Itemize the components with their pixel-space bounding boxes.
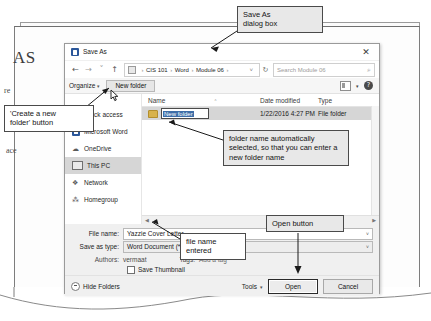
sort-ascending-icon: ˄ xyxy=(214,98,217,105)
back-icon[interactable]: ← xyxy=(69,63,82,77)
chevron-down-icon[interactable]: ˅ xyxy=(366,231,369,237)
folder-rename-input[interactable]: New folder xyxy=(161,108,209,119)
search-input[interactable]: Search Module 06 ⌕ xyxy=(273,63,375,77)
save-thumbnail-row[interactable]: Save Thumbnail xyxy=(65,264,379,275)
organize-button[interactable]: Organize▾ xyxy=(69,82,100,89)
sidebar-item-this-pc[interactable]: This PC xyxy=(65,157,141,174)
column-header-name-label: Name xyxy=(148,97,165,104)
dialog-footer: Hide Folders Tools▾ Open Cancel xyxy=(65,275,379,296)
breadcrumb-dropdown-icon[interactable]: ˅ xyxy=(246,67,256,73)
sidebar-item-label: Homegroup xyxy=(84,196,118,203)
row-date-modified-cell: 1/22/2016 4:27 PM xyxy=(260,110,318,117)
chevron-down-icon[interactable]: ˅ xyxy=(366,244,369,250)
callout-line: Save As xyxy=(243,10,317,19)
breadcrumb[interactable]: › CIS 101 › Word › Module 06 › ˅ xyxy=(124,63,260,77)
cloud-icon: ☁ xyxy=(72,145,80,153)
cancel-button[interactable]: Cancel xyxy=(323,279,373,294)
sidebar-item-onedrive[interactable]: ☁ OneDrive xyxy=(65,140,141,157)
authors-value[interactable]: vermaat xyxy=(123,256,169,263)
callout-line: file name xyxy=(186,237,240,246)
open-button[interactable]: Open xyxy=(268,279,318,294)
breadcrumb-item-1[interactable]: Word xyxy=(175,67,189,73)
breadcrumb-item-2[interactable]: Module 06 xyxy=(196,67,224,73)
toolbar-right-group: ▾ ? xyxy=(340,81,375,91)
hide-folders-button[interactable]: Hide Folders xyxy=(71,282,120,291)
file-name-label: File name: xyxy=(65,230,123,237)
row-name-cell[interactable]: New folder xyxy=(142,108,260,119)
authors-label: Authors: xyxy=(91,256,123,263)
collapse-icon xyxy=(71,282,80,291)
network-icon: ❖ xyxy=(72,179,80,187)
background-text-fragment-2: ace xyxy=(6,146,17,155)
callout-folder-name-selected: folder name automatically selected, so t… xyxy=(223,130,349,166)
column-header-date-modified[interactable]: Date modified xyxy=(260,97,318,104)
dialog-title-bar: Save As ✕ xyxy=(65,44,379,61)
breadcrumb-separator-1: › xyxy=(170,67,172,73)
search-icon: ⌕ xyxy=(367,66,371,74)
word-document-icon xyxy=(71,48,79,56)
change-view-icon[interactable] xyxy=(340,81,351,91)
chevron-down-icon: ▾ xyxy=(97,83,100,89)
row-type-cell: File folder xyxy=(318,110,358,117)
column-header-type[interactable]: Type xyxy=(318,97,358,104)
organize-label: Organize xyxy=(69,82,95,89)
close-icon[interactable]: ✕ xyxy=(353,44,379,60)
sidebar-item-label: OneDrive xyxy=(84,145,111,152)
sidebar-item-network[interactable]: ❖ Network xyxy=(65,174,141,191)
footer-buttons: Tools▾ Open Cancel xyxy=(242,279,373,294)
save-as-type-select[interactable]: Word Document (*.docx) ˅ xyxy=(123,241,373,253)
save-thumbnail-checkbox[interactable] xyxy=(127,266,135,274)
view-chevron-down-icon[interactable]: ▾ xyxy=(356,83,359,89)
callout-save-as-dialog: Save As dialog box xyxy=(237,6,323,33)
sidebar-item-label: Network xyxy=(84,179,108,186)
folder-icon xyxy=(148,110,158,118)
computer-icon xyxy=(72,161,83,170)
refresh-icon[interactable]: ↻ xyxy=(260,66,271,74)
callout-line: folder' button xyxy=(10,118,88,127)
callout-line: dialog box xyxy=(243,19,317,28)
file-list-header: Name˄ Date modified Type xyxy=(142,94,379,107)
table-row[interactable]: New folder 1/22/2016 4:27 PM File folder xyxy=(142,107,379,120)
callout-file-name-entered: file name entered xyxy=(180,233,246,260)
scroll-right-icon[interactable]: ▶ xyxy=(369,217,379,223)
callout-line: entered xyxy=(186,246,240,255)
dialog-title: Save As xyxy=(83,48,107,55)
forward-icon[interactable]: → xyxy=(82,63,95,77)
breadcrumb-separator-0: › xyxy=(142,67,144,73)
tools-label: Tools xyxy=(242,283,257,290)
hide-folders-label: Hide Folders xyxy=(83,283,120,290)
breadcrumb-item-0[interactable]: CIS 101 xyxy=(146,67,168,73)
callout-create-new-folder: 'Create a new folder' button xyxy=(4,105,94,132)
folder-icon xyxy=(128,66,136,74)
homegroup-icon: ⁂ xyxy=(72,196,80,204)
file-name-value: Yazzie Cover Letter xyxy=(127,230,184,237)
scroll-left-icon[interactable]: ◀ xyxy=(142,217,152,223)
folder-name-selected-text: New folder xyxy=(163,111,194,117)
recent-locations-icon[interactable]: ˅ xyxy=(95,63,108,77)
breadcrumb-separator-3: › xyxy=(226,67,228,73)
mouse-cursor-icon xyxy=(110,89,120,102)
save-as-type-label: Save as type: xyxy=(65,243,123,250)
search-placeholder: Search Module 06 xyxy=(277,67,367,73)
help-icon[interactable]: ? xyxy=(364,81,373,90)
background-text-fragment-1: re xyxy=(4,86,10,95)
address-bar: ← → ˅ ↑ › CIS 101 › Word › Module 06 › ˅… xyxy=(65,61,379,78)
sidebar-item-label: This PC xyxy=(87,162,110,169)
sidebar-item-homegroup[interactable]: ⁂ Homegroup xyxy=(65,191,141,208)
save-thumbnail-label: Save Thumbnail xyxy=(138,266,185,273)
up-icon[interactable]: ↑ xyxy=(108,63,121,77)
vertical-scrollbar[interactable] xyxy=(371,106,379,216)
callout-line: 'Create a new xyxy=(10,109,88,118)
callout-open-button: Open button xyxy=(266,215,344,232)
screenshot-root: AS re ace Module 03 ...ty › Word 2016 › … xyxy=(0,0,431,321)
breadcrumb-separator-2: › xyxy=(191,67,193,73)
chevron-down-icon: ▾ xyxy=(260,284,263,290)
column-header-name[interactable]: Name˄ xyxy=(142,97,260,104)
tools-button[interactable]: Tools▾ xyxy=(242,283,263,290)
background-heading-fragment: AS xyxy=(13,48,36,68)
